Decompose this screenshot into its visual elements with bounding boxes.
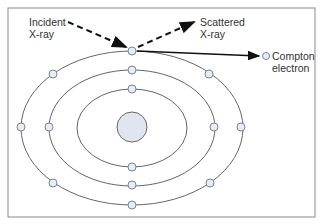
nucleus — [117, 112, 147, 142]
incident-xray-label: Incident X-ray — [29, 16, 66, 40]
scattered-xray-label: Scattered X-ray — [200, 16, 245, 40]
compton-electron-label: Compton electron — [272, 50, 315, 74]
